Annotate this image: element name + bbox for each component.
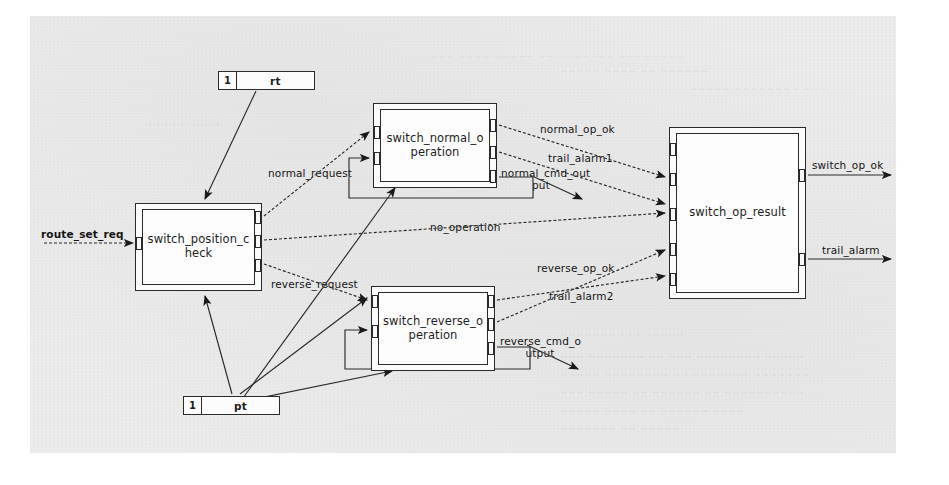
input-port-1[interactable] xyxy=(374,126,380,139)
constant-label: pt xyxy=(202,397,279,414)
label-line-1: normal_cmd_out xyxy=(501,167,590,179)
block-body: switch_op_result xyxy=(676,133,799,293)
output-port-1[interactable] xyxy=(799,169,805,182)
label-line-2: put xyxy=(532,179,550,191)
input-port-1[interactable] xyxy=(670,143,676,156)
output-port-2[interactable] xyxy=(799,253,805,266)
constant-block-rt[interactable]: 1 rt xyxy=(218,71,315,90)
block-body: switch_reverse_o peration xyxy=(378,292,488,365)
output-port-1[interactable] xyxy=(490,119,496,132)
output-port-3[interactable] xyxy=(488,342,494,355)
constant-index: 1 xyxy=(184,397,202,414)
output-port-3[interactable] xyxy=(255,259,261,272)
block-switch-reverse-operation[interactable]: switch_reverse_o peration xyxy=(371,286,495,371)
output-port-2[interactable] xyxy=(255,235,261,248)
signal-label-no-operation: no_operation xyxy=(430,221,501,233)
signal-label-normal-request: normal_request xyxy=(268,167,352,179)
output-port-1[interactable] xyxy=(255,211,261,224)
constant-block-pt[interactable]: 1 pt xyxy=(183,396,280,415)
input-port-2[interactable] xyxy=(670,173,676,186)
block-body: switch_normal_o peration xyxy=(380,109,490,182)
label-line-1: reverse_cmd_o xyxy=(500,335,581,347)
signal-label-normal-cmd-output: normal_cmd_out put xyxy=(501,168,581,192)
block-switch-op-result[interactable]: switch_op_result xyxy=(669,127,806,299)
input-port-1[interactable] xyxy=(372,295,378,308)
signal-label-normal-op-ok: normal_op_ok xyxy=(540,123,615,135)
block-label: switch_reverse_o peration xyxy=(379,315,487,342)
signal-label-switch-op-ok: switch_op_ok xyxy=(812,159,883,171)
output-port-2[interactable] xyxy=(488,318,494,331)
input-port-1[interactable] xyxy=(136,237,142,250)
block-label: switch_position_c heck xyxy=(143,233,254,260)
output-port-2[interactable] xyxy=(490,146,496,159)
wire-pt-to-position-check xyxy=(205,296,232,394)
input-port-3[interactable] xyxy=(670,208,676,221)
input-port-5[interactable] xyxy=(670,273,676,286)
block-label: switch_normal_o peration xyxy=(381,132,489,159)
wire-rt-to-position-check xyxy=(205,91,256,199)
constant-label: rt xyxy=(237,72,314,89)
signal-label-trail-alarm: trail_alarm xyxy=(822,244,880,256)
signal-label-route-set-req: route_set_req xyxy=(41,228,124,240)
signal-label-reverse-request: reverse_request xyxy=(271,278,358,290)
block-body: switch_position_c heck xyxy=(142,209,255,285)
diagram-canvas: ~~~ ~~~~ ~~~~~ ~~ ~~~~~~~ ~~~~~~~~~~~~~ … xyxy=(0,0,949,485)
signal-label-trail-alarm2: trail_alarm2 xyxy=(549,290,614,302)
signal-label-reverse-op-ok: reverse_op_ok xyxy=(537,262,615,274)
output-port-3[interactable] xyxy=(490,170,496,183)
input-port-2[interactable] xyxy=(374,152,380,165)
block-switch-position-check[interactable]: switch_position_c heck xyxy=(135,203,262,291)
block-switch-normal-operation[interactable]: switch_normal_o peration xyxy=(373,103,497,188)
block-label: switch_op_result xyxy=(677,206,798,220)
output-port-1[interactable] xyxy=(488,295,494,308)
constant-index: 1 xyxy=(219,72,237,89)
label-line-2: utput xyxy=(526,347,555,359)
input-port-4[interactable] xyxy=(670,243,676,256)
wire-trail-alarm2 xyxy=(497,250,665,322)
input-port-2[interactable] xyxy=(372,325,378,338)
signal-label-trail-alarm1: trail_alarm1 xyxy=(548,152,613,164)
signal-label-reverse-cmd-output: reverse_cmd_o utput xyxy=(500,336,580,360)
